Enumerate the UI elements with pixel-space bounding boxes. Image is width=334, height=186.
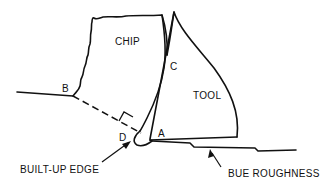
bue-roughness-arrow	[208, 149, 221, 167]
point-b-label: B	[62, 84, 69, 94]
bue-roughness-label: BUE ROUGHNESS	[228, 169, 320, 179]
chip-outline	[73, 15, 167, 96]
point-c-label: C	[170, 62, 178, 72]
chip-label: CHIP	[115, 37, 140, 47]
tool-back-curve	[167, 12, 238, 137]
right-angle-marker	[119, 112, 133, 121]
machined-surface	[152, 141, 296, 151]
diagram-canvas: CHIP TOOL B C D A BUILT-UP EDGE BUE ROUG…	[0, 0, 334, 186]
built-up-edge-arrow	[102, 141, 131, 162]
tool-label: TOOL	[193, 91, 221, 101]
point-d-label: D	[119, 133, 127, 143]
diagram-drawing	[0, 0, 334, 186]
built-up-edge-label: BUILT-UP EDGE	[20, 165, 99, 175]
shear-plane-line	[73, 96, 141, 133]
point-a-label: A	[158, 129, 165, 139]
chip-tool-interface	[140, 15, 165, 131]
